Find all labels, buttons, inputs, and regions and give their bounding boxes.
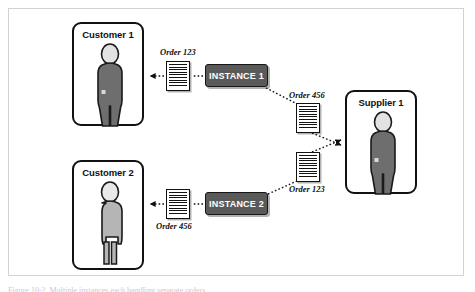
person-icon-customer-2 — [74, 162, 146, 272]
instance-1-label: INSTANCE 1 — [209, 71, 264, 81]
instance-2-label: INSTANCE 2 — [209, 199, 264, 209]
entity-customer-1[interactable]: Customer 1 — [72, 22, 144, 126]
person-icon-supplier-1 — [347, 92, 419, 196]
entity-supplier-1[interactable]: Supplier 1 — [345, 90, 417, 194]
person-icon-customer-1 — [74, 24, 146, 128]
document-lines — [169, 192, 187, 216]
entity-customer-2[interactable]: Customer 2 — [72, 160, 144, 270]
order-label-top-customer: Order 123 — [160, 47, 196, 57]
document-icon-order-456-to-customer-2[interactable] — [166, 189, 190, 219]
connector-doc123-to-supplier1 — [312, 140, 341, 152]
instance-1-box[interactable]: INSTANCE 1 — [205, 64, 268, 87]
figure-page: Customer 1 Customer 2 Supplier 1 — [0, 0, 475, 292]
document-lines — [169, 64, 187, 88]
document-icon-order-123-to-customer-1[interactable] — [166, 61, 190, 91]
diagram-canvas: Customer 1 Customer 2 Supplier 1 — [0, 0, 475, 292]
document-lines — [299, 155, 317, 179]
figure-caption: Figure 10-2. Multiple instances each han… — [8, 285, 468, 292]
connector-doc456-to-supplier1 — [312, 133, 341, 145]
instance-2-box[interactable]: INSTANCE 2 — [205, 192, 268, 215]
order-label-top-supplier: Order 456 — [289, 90, 325, 100]
order-label-bottom-customer: Order 456 — [156, 221, 192, 231]
order-label-bottom-supplier: Order 123 — [289, 184, 325, 194]
document-icon-order-456-to-supplier-1[interactable] — [296, 103, 320, 133]
document-lines — [299, 106, 317, 130]
document-icon-order-123-to-supplier-1[interactable] — [296, 152, 320, 182]
